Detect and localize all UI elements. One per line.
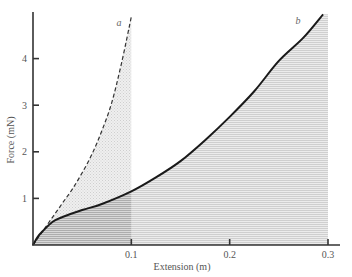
y-axis-label: Force (mN) bbox=[5, 117, 17, 164]
x-tick-label: 0.3 bbox=[322, 249, 335, 260]
y-tick-label: 3 bbox=[22, 100, 27, 111]
x-tick-label: 0.1 bbox=[125, 249, 138, 260]
y-tick-label: 4 bbox=[22, 53, 27, 64]
x-axis-label: Extension (m) bbox=[154, 261, 211, 273]
y-tick-label: 1 bbox=[22, 193, 27, 204]
curve-a-label: a bbox=[117, 17, 122, 28]
x-tick-label: 0.2 bbox=[223, 249, 236, 260]
y-tick-label: 2 bbox=[22, 146, 27, 157]
curve-b-label: b bbox=[296, 15, 301, 26]
shaded-areas bbox=[33, 14, 328, 245]
force-extension-chart: 0.10.20.31234 Extension (m) Force (mN) a… bbox=[0, 0, 352, 277]
